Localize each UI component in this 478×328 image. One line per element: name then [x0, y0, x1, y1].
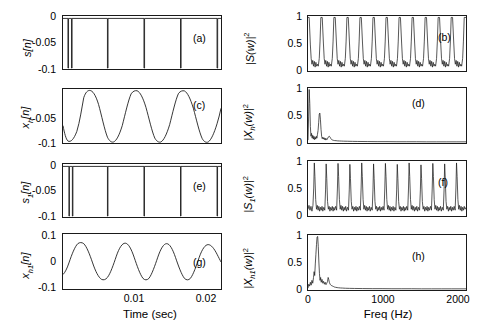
panel-f-tag: (f): [438, 176, 448, 188]
panel-g-tag: (g): [193, 256, 206, 268]
panel-d-ytick-1: 0.5: [262, 110, 302, 120]
panel-g-ytick-2: -0.1: [10, 282, 56, 292]
panel-e-ylabel-main: s: [19, 198, 31, 204]
panel-g-ytick-0: 0.1: [10, 230, 56, 240]
panel-b-ytick-0: 1: [262, 11, 302, 21]
panel-g-ylabel-sub: h1: [26, 265, 35, 273]
panel-h-ytick-2: 0: [262, 284, 302, 294]
panel-b-axes: [307, 15, 467, 72]
panel-f-ylabel: |S1(w)|2: [241, 161, 258, 227]
panel-c-axes: [62, 88, 222, 144]
panel-h-xtick-2: 2000: [446, 294, 469, 305]
panel-h-axes: [307, 234, 467, 291]
panel-a-ytick-1: -0.05: [10, 37, 56, 47]
panel-d-tag: (d): [412, 97, 425, 109]
panel-b-ylabel: |S(w)|2: [242, 19, 256, 79]
panel-h-ylabel: |Xh1(w)|2: [241, 233, 258, 303]
panel-f-ytick-0: 1: [262, 156, 302, 166]
panel-f-axes: [307, 160, 467, 217]
panel-h-ylabel-main: |X: [242, 279, 254, 289]
time-axis-label: Time (sec): [123, 308, 177, 320]
panel-c-ytick-1: -0.1: [10, 138, 56, 148]
panel-c-ytick-0: -0.05: [10, 113, 56, 123]
panel-h-ylabel-tail: (w)|: [242, 252, 254, 270]
panel-h-ylabel-sup: 2: [241, 248, 250, 252]
panel-e-ytick-1: -0.05: [10, 185, 56, 195]
panel-f-ylabel-tail: (w)|: [242, 180, 254, 198]
panel-b-ytick-1: 0.5: [262, 38, 302, 48]
panel-b-tag: (b): [438, 31, 451, 43]
panel-d-ylabel-sup: 2: [241, 104, 250, 108]
signal-processing-figure: s[n] 0 -0.05 -0.1 (a) xh[n] -0.05 -0.1 (…: [0, 0, 478, 328]
panel-b-ytick-2: 0: [262, 65, 302, 75]
panel-f-ylabel-main: |S: [242, 203, 254, 213]
panel-d-ylabel-sub: h: [248, 126, 257, 130]
panel-d-axes: [307, 87, 467, 144]
panel-e-ytick-2: -0.1: [10, 211, 56, 221]
panel-b-ylabel-main: |S(w)|: [244, 37, 256, 65]
panel-a-tag: (a): [193, 32, 206, 44]
panel-d-ylabel-tail: (w)|: [242, 108, 254, 126]
panel-c-tag: (c): [193, 99, 205, 111]
panel-d-ylabel-main: |X: [242, 131, 254, 141]
panel-d-ylabel: |Xh(w)|2: [241, 89, 258, 155]
panel-f-ylabel-sub: 1: [248, 198, 257, 202]
panel-a-ylabel-main: s: [21, 51, 33, 57]
freq-axis-label: Freq (Hz): [364, 308, 413, 320]
panel-g-ylabel-main: x: [19, 273, 31, 279]
panel-d-ytick-2: 0: [262, 137, 302, 147]
panel-g-xtick-1: 0.02: [196, 293, 216, 304]
panel-h-ylabel-sub: h1: [248, 270, 257, 278]
panel-h-xtick-0: 0: [305, 294, 311, 305]
panel-f-ytick-2: 0: [262, 210, 302, 220]
panel-b-ylabel-sup: 2: [242, 33, 251, 37]
panel-h-xtick-1: 1000: [371, 294, 394, 305]
panel-a-ytick-0: 0: [10, 11, 56, 21]
panel-h-ytick-1: 0.5: [262, 257, 302, 267]
panel-f-ytick-1: 0.5: [262, 183, 302, 193]
panel-h-tag: (h): [412, 250, 425, 262]
panel-e-tag: (e): [193, 180, 206, 192]
panel-g-ytick-1: 0: [10, 256, 56, 266]
panel-d-ytick-0: 1: [262, 83, 302, 93]
panel-a-ytick-2: -0.1: [10, 64, 56, 74]
panel-f-ylabel-sup: 2: [241, 176, 250, 180]
panel-e-ytick-0: 0: [10, 160, 56, 170]
panel-h-ytick-0: 1: [262, 230, 302, 240]
panel-c-ylabel-main: x: [19, 123, 31, 129]
panel-g-xtick-0: 0.01: [124, 293, 144, 304]
